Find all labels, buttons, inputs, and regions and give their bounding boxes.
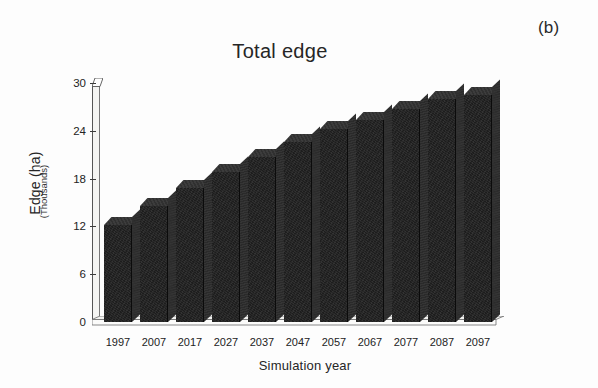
bar[interactable] [140,198,168,322]
bar[interactable] [464,87,492,322]
bar-group [0,0,598,388]
bar-side-face [240,157,248,322]
bar-side-face [384,104,392,322]
bar-side-face [348,114,356,322]
bar-front-face [392,109,420,322]
bar-front-face [248,157,276,322]
bar[interactable] [320,121,348,322]
bar-side-face [204,173,212,322]
bar-side-face [312,126,320,321]
bar[interactable] [392,101,420,322]
bar[interactable] [248,149,276,322]
bar-side-face [276,142,284,322]
bar-front-face [104,225,132,322]
bar-front-face [428,99,456,322]
bar[interactable] [104,217,132,322]
bar-side-face [168,190,176,322]
bar-front-face [356,120,384,322]
bar-front-face [464,95,492,322]
bar-front-face [320,129,348,322]
plot-area: 0612182430 19972007201720272037204720572… [0,0,598,388]
bar[interactable] [356,112,384,322]
figure-panel: (b) Total edge Edge (ha) (Thousands) Sim… [0,0,598,388]
bar-front-face [284,142,312,322]
bar[interactable] [284,134,312,322]
bar-side-face [492,79,500,322]
x-tick-label: 2097 [457,336,499,348]
bar-side-face [420,94,428,322]
bar-side-face [456,83,464,322]
bar-front-face [176,188,204,322]
bar-side-face [132,209,140,322]
bar[interactable] [212,164,240,322]
bar-front-face [212,172,240,322]
bar[interactable] [428,91,456,322]
bar-front-face [140,206,168,322]
bar[interactable] [176,180,204,322]
